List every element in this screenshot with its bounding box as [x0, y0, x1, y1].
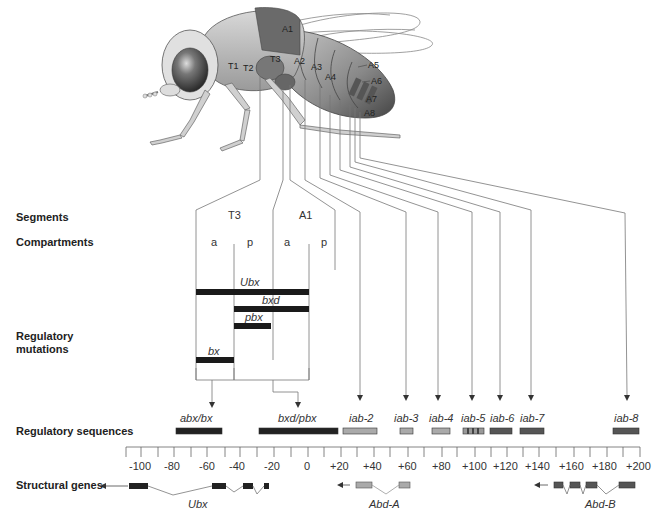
reg-label-iab-6: iab-6	[490, 412, 514, 424]
arrow-icons	[209, 395, 630, 408]
axis-tick-label: +100	[462, 460, 487, 472]
reg-box-iab-8	[613, 428, 639, 434]
axis-tick-label: -80	[164, 460, 180, 472]
reg-label-abx-bx: abx/bx	[180, 412, 212, 424]
reg-label-bxd-pbx: bxd/pbx	[278, 412, 317, 424]
gene-label-abd-a: Abd-A	[369, 498, 400, 510]
fly-label-a1: A1	[282, 24, 293, 34]
compartment-label-a1-a: a	[284, 236, 290, 248]
structural-genes	[100, 482, 635, 495]
compartment-label-t3-a: a	[211, 236, 217, 248]
reg-label-iab-7: iab-7	[520, 412, 544, 424]
reg-box-iab-6	[490, 428, 512, 434]
axis-tick-label: -20	[264, 460, 280, 472]
fly-illustration: T1 T2 T3 A1 A2 A3 A4 A5 A6 A7 A8	[143, 8, 433, 152]
mutation-bar-pbx	[234, 323, 271, 329]
axis-tick-label: -40	[229, 460, 245, 472]
axis-tick-label: +80	[432, 460, 451, 472]
row-label-regulatory-mutations-line1: Regulatory	[16, 330, 73, 343]
reg-label-iab-2: iab-2	[349, 412, 373, 424]
fly-label-a2: A2	[294, 56, 305, 66]
mutation-bar-bx	[196, 357, 234, 363]
reg-box-iab-7	[520, 428, 544, 434]
axis-tick-label: +60	[398, 460, 417, 472]
fly-label-a3: A3	[311, 62, 322, 72]
compartment-label-t3-p: p	[247, 236, 253, 248]
gene-label-ubx: Ubx	[188, 498, 208, 510]
regulatory-sequence-boxes	[176, 428, 639, 434]
fly-label-a8: A8	[364, 108, 375, 118]
reg-label-iab-5: iab-5	[461, 412, 485, 424]
genomic-axis	[126, 447, 640, 457]
reg-label-iab-8: iab-8	[614, 412, 638, 424]
row-label-regulatory-mutations: Regulatory mutations	[16, 330, 73, 356]
reg-label-iab-3: iab-3	[394, 412, 418, 424]
axis-tick-label: -100	[129, 460, 151, 472]
fly-label-a6: A6	[371, 76, 382, 86]
mutation-label-pbx: pbx	[245, 311, 263, 323]
eye-icon	[172, 48, 208, 92]
bithorax-complex-diagram: T1 T2 T3 A1 A2 A3 A4 A5 A6 A7 A8	[0, 0, 663, 521]
fly-label-a5: A5	[368, 60, 379, 70]
arrow-left-icon	[337, 482, 343, 488]
reg-label-iab-4: iab-4	[429, 412, 453, 424]
segment-label-t3: T3	[228, 209, 241, 221]
fly-label-t2: T2	[243, 63, 254, 73]
reg-box-abx-bx	[176, 428, 222, 434]
row-label-structural-genes: Structural genes	[16, 479, 103, 492]
reg-box-iab-3	[400, 428, 413, 434]
reg-box-bxd-pbx	[259, 428, 338, 434]
mutation-label-ubx: Ubx	[240, 276, 260, 288]
axis-tick-label: +200	[626, 460, 651, 472]
arrow-left-icon	[534, 482, 540, 488]
row-label-segments: Segments	[16, 211, 69, 224]
axis-tick-label: +120	[493, 460, 518, 472]
axis-tick-label: +140	[525, 460, 550, 472]
compartment-label-a1-p: p	[321, 236, 327, 248]
axis-tick-label: +20	[330, 460, 349, 472]
gene-label-abd-b: Abd-B	[585, 498, 616, 510]
segment-connector-lines	[196, 75, 627, 395]
mutation-bar-ubx	[196, 289, 309, 295]
axis-tick-label: -60	[199, 460, 215, 472]
axis-tick-label: 0	[304, 460, 310, 472]
fly-label-a4: A4	[325, 72, 336, 82]
row-label-regulatory-mutations-line2: mutations	[16, 343, 73, 356]
row-label-compartments: Compartments	[16, 236, 94, 249]
fly-label-t1: T1	[228, 61, 239, 71]
axis-tick-label: +180	[592, 460, 617, 472]
fly-label-a7: A7	[366, 94, 377, 104]
axis-tick-label: +40	[363, 460, 382, 472]
segment-label-a1: A1	[299, 209, 312, 221]
fly-label-t3: T3	[270, 54, 281, 64]
mutation-label-bxd: bxd	[262, 294, 280, 306]
reg-box-iab-2	[343, 428, 377, 434]
mutation-label-bx: bx	[208, 345, 220, 357]
reg-box-iab-4	[432, 428, 450, 434]
axis-tick-label: +160	[559, 460, 584, 472]
row-label-regulatory-sequences: Regulatory sequences	[16, 425, 133, 438]
